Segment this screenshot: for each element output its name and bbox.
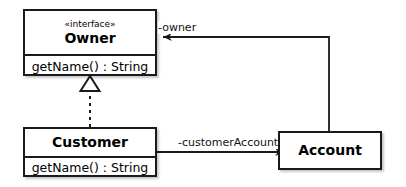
edge-label-owner-role: -owner	[158, 21, 196, 34]
uml-class-diagram: «interface» Owner getName() : String Cus…	[0, 0, 406, 187]
class-header-customer: Customer	[25, 129, 155, 156]
stereotype-label-owner: «interface»	[64, 19, 115, 30]
class-name-owner: Owner	[64, 30, 115, 47]
member-customer-getname: getName() : String	[32, 160, 149, 175]
class-box-customer[interactable]: Customer getName() : String	[23, 127, 157, 177]
owner-association-line	[163, 37, 329, 131]
class-box-account[interactable]: Account	[278, 131, 382, 170]
hollow-triangle-arrowhead-icon	[81, 76, 100, 91]
member-owner-getname: getName() : String	[32, 59, 149, 74]
class-name-customer: Customer	[52, 134, 128, 151]
members-compartment-customer: getName() : String	[25, 158, 155, 177]
owner-association-connector	[163, 37, 329, 131]
class-header-account: Account	[280, 133, 380, 168]
members-compartment-owner: getName() : String	[25, 56, 155, 76]
realization-connector	[81, 76, 100, 127]
class-name-account: Account	[298, 142, 362, 159]
class-box-owner[interactable]: «interface» Owner getName() : String	[23, 9, 157, 76]
edge-label-customer-account-role: -customerAccount	[178, 136, 278, 149]
class-header-owner: «interface» Owner	[25, 11, 155, 54]
